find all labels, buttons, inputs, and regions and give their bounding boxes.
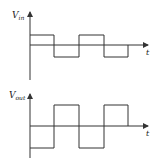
output-y-label: Vout: [9, 90, 26, 101]
input-square-wave: [30, 35, 128, 57]
input-plot: Vin t: [12, 10, 150, 80]
output-plot: Vout t: [9, 90, 150, 158]
output-x-label: t: [146, 129, 150, 138]
waveform-diagram: Vin t Vout t: [0, 0, 156, 168]
input-y-label: Vin: [12, 10, 24, 21]
input-x-label: t: [146, 48, 150, 57]
